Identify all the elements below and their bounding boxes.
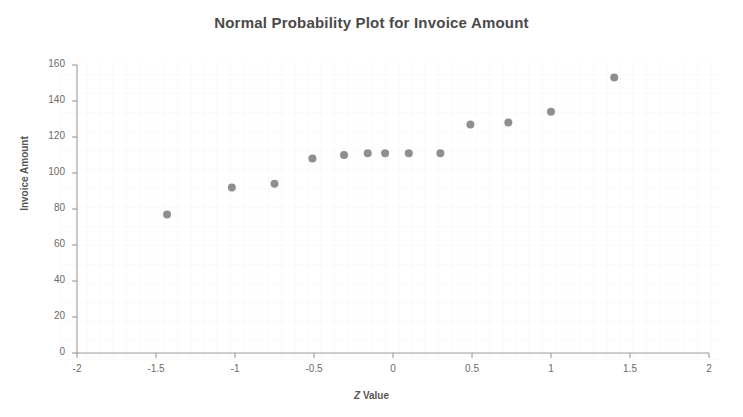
y-axis-tick-label: 140 — [25, 94, 65, 105]
data-point — [228, 183, 236, 191]
y-axis-tick-label: 120 — [25, 130, 65, 141]
data-point — [436, 149, 444, 157]
y-axis-tick-label: 40 — [25, 274, 65, 285]
x-axis-tick-label: 1.5 — [610, 363, 650, 374]
x-axis-tick-label: -0.5 — [294, 363, 334, 374]
data-point — [547, 108, 555, 116]
data-point — [364, 149, 372, 157]
y-axis-ticks — [72, 65, 77, 353]
data-point-markers — [163, 74, 618, 219]
y-axis-tick-label: 160 — [25, 58, 65, 69]
axes — [77, 65, 709, 353]
y-axis-tick-label: 80 — [25, 202, 65, 213]
plot-area — [0, 0, 743, 417]
x-axis-tick-label: 1 — [531, 363, 571, 374]
y-axis-tick-label: 100 — [25, 166, 65, 177]
x-axis-tick-label: -1.5 — [136, 363, 176, 374]
data-point — [466, 120, 474, 128]
y-axis-tick-label: 20 — [25, 310, 65, 321]
normal-probability-plot: Normal Probability Plot for Invoice Amou… — [0, 0, 743, 417]
x-axis-tick-label: 0.5 — [452, 363, 492, 374]
x-axis-tick-label: 2 — [689, 363, 729, 374]
data-point — [381, 149, 389, 157]
x-axis-tick-label: -2 — [57, 363, 97, 374]
data-point — [610, 74, 618, 82]
x-axis-tick-label: 0 — [373, 363, 413, 374]
data-point — [405, 149, 413, 157]
data-point — [163, 210, 171, 218]
data-point — [271, 180, 279, 188]
data-point — [340, 151, 348, 159]
x-axis-tick-label: -1 — [215, 363, 255, 374]
data-point — [308, 155, 316, 163]
data-point — [504, 119, 512, 127]
x-axis-ticks — [77, 353, 709, 358]
y-axis-tick-label: 0 — [25, 346, 65, 357]
y-axis-tick-label: 60 — [25, 238, 65, 249]
